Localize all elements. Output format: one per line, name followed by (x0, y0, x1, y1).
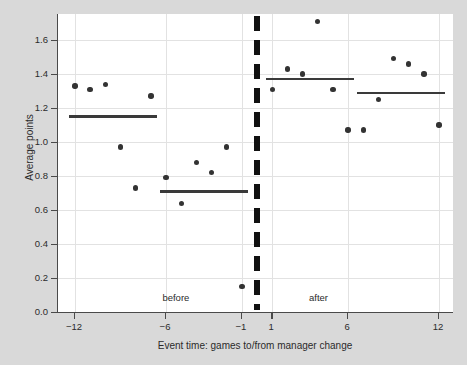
x-tick-mark (438, 313, 439, 319)
dash-segment (254, 232, 260, 247)
after-early-mean (266, 78, 354, 80)
dash-segment (254, 208, 260, 223)
y-tick-label: 1.4 (35, 69, 48, 79)
plot-panel: beforeafter (57, 14, 453, 312)
y-tick-label: 0.6 (35, 205, 48, 215)
y-tick-label: 1.0 (35, 137, 48, 147)
y-tick-mark (51, 278, 57, 279)
dash-segment (254, 88, 260, 103)
before-label: before (162, 292, 189, 303)
data-point (361, 127, 366, 132)
before-late-mean (160, 190, 248, 192)
gridline-vertical (272, 14, 273, 312)
x-tick-label: 6 (327, 321, 367, 332)
y-tick-mark (51, 176, 57, 177)
after-late-mean (357, 92, 445, 94)
event-time-dashed-line (254, 14, 260, 312)
x-tick-label: −6 (145, 321, 185, 332)
dash-segment (254, 64, 260, 79)
gridline-vertical (75, 14, 76, 312)
data-point (436, 122, 441, 127)
data-point (103, 82, 108, 87)
data-point (118, 144, 123, 149)
dash-segment (254, 280, 260, 295)
y-axis-title: Average points (24, 68, 35, 228)
y-tick-label: 0.8 (35, 171, 48, 181)
data-point (148, 93, 153, 98)
data-point (376, 97, 381, 102)
dash-segment (254, 40, 260, 55)
dash-segment (254, 304, 260, 310)
gridline-vertical (166, 14, 167, 312)
data-point (315, 19, 320, 24)
x-axis-title: Event time: games to/from manager change (57, 340, 453, 351)
y-tick-mark (51, 142, 57, 143)
x-tick-mark (165, 313, 166, 319)
dash-segment (254, 184, 260, 199)
y-tick-label: 0.4 (35, 239, 48, 249)
y-tick-mark (51, 312, 57, 313)
y-tick-label: 1.2 (35, 103, 48, 113)
data-point (421, 71, 426, 76)
dash-segment (254, 136, 260, 151)
data-point (209, 170, 214, 175)
dash-segment (254, 112, 260, 127)
data-point (300, 71, 305, 76)
data-point (270, 87, 275, 92)
x-tick-label: −12 (54, 321, 94, 332)
x-axis-line (57, 312, 453, 313)
data-point (133, 185, 138, 190)
gridline-vertical (439, 14, 440, 312)
y-tick-label: 0.2 (35, 273, 48, 283)
x-tick-mark (74, 313, 75, 319)
data-point (87, 87, 92, 92)
chart-figure: beforeafter 0.00.20.40.60.81.01.21.41.6 … (0, 0, 467, 365)
dash-segment (254, 256, 260, 271)
dash-segment (254, 160, 260, 175)
y-tick-mark (51, 244, 57, 245)
y-tick-label: 0.0 (35, 307, 48, 317)
data-point (406, 61, 411, 66)
x-tick-label: 1 (251, 321, 291, 332)
after-label: after (309, 292, 328, 303)
x-tick-mark (347, 313, 348, 319)
y-axis-line (57, 14, 58, 312)
data-point (330, 87, 335, 92)
before-early-mean (69, 115, 157, 117)
data-point (179, 201, 184, 206)
y-tick-mark (51, 108, 57, 109)
data-point (391, 56, 396, 61)
data-point (345, 127, 350, 132)
y-tick-label: 1.6 (35, 35, 48, 45)
x-tick-mark (271, 313, 272, 319)
y-tick-mark (51, 74, 57, 75)
data-point (285, 66, 290, 71)
data-point (224, 144, 229, 149)
x-tick-mark (241, 313, 242, 319)
data-point (239, 284, 244, 289)
x-tick-label: 12 (418, 321, 458, 332)
data-point (194, 160, 199, 165)
y-tick-mark (51, 210, 57, 211)
y-tick-mark (51, 40, 57, 41)
plot-area: beforeafter (58, 14, 453, 312)
data-point (72, 83, 77, 88)
gridline-vertical (348, 14, 349, 312)
gridline-vertical (242, 14, 243, 312)
dash-segment (254, 16, 260, 31)
data-point (163, 175, 168, 180)
